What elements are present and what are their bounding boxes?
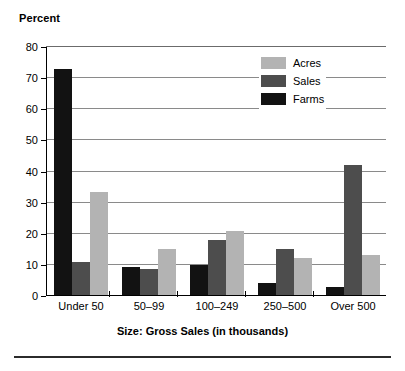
y-tick-label-80: 80: [0, 41, 38, 53]
bar-chart-figure: Percent 01020304050607080 Under 5050–991…: [0, 0, 405, 371]
legend-item-sales: Sales: [261, 72, 324, 90]
legend-swatch-acres: [261, 57, 286, 69]
legend-swatch-farms: [261, 93, 286, 105]
y-tick-label-40: 40: [0, 166, 38, 178]
x-tick-label: Over 500: [330, 300, 375, 312]
y-tick-label-70: 70: [0, 72, 38, 84]
x-tick-label: 100–249: [196, 300, 239, 312]
y-axis-ticks: 01020304050607080: [0, 47, 42, 296]
y-tick-mark-0: [41, 296, 46, 297]
legend-item-farms: Farms: [261, 90, 324, 108]
chart-legend: AcresSalesFarms: [259, 52, 326, 110]
plot-area: [46, 47, 386, 296]
legend-label: Farms: [293, 93, 324, 105]
y-tick-label-20: 20: [0, 228, 38, 240]
y-tick-label-50: 50: [0, 134, 38, 146]
x-axis-ticks: Under 5050–99100–249250–500Over 500: [46, 300, 386, 316]
y-tick-label-0: 0: [0, 290, 38, 302]
x-tick-label: 250–500: [264, 300, 307, 312]
plot-frame: [46, 47, 386, 296]
legend-swatch-sales: [261, 75, 286, 87]
x-tick-label: Under 50: [58, 300, 103, 312]
y-tick-label-60: 60: [0, 103, 38, 115]
y-axis-title: Percent: [19, 12, 60, 24]
x-axis-title: Size: Gross Sales (in thousands): [0, 325, 405, 337]
bottom-rule: [14, 356, 391, 358]
x-tick-label: 50–99: [134, 300, 165, 312]
legend-label: Acres: [293, 57, 321, 69]
y-tick-label-30: 30: [0, 197, 38, 209]
y-tick-label-10: 10: [0, 259, 38, 271]
legend-item-acres: Acres: [261, 54, 324, 72]
legend-label: Sales: [293, 75, 321, 87]
